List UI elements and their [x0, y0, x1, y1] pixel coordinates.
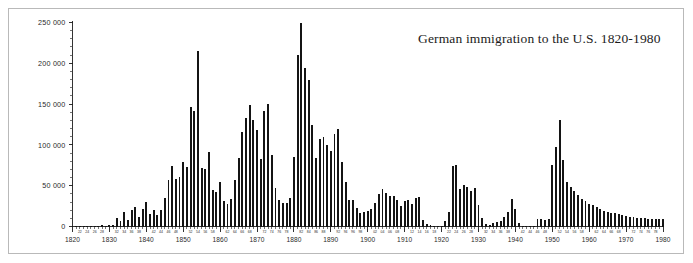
- bar: [485, 224, 487, 226]
- bar: [97, 226, 99, 227]
- x-axis-minor-label: 34: [491, 230, 495, 234]
- bar: [131, 210, 133, 227]
- bar: [363, 212, 365, 226]
- bar: [544, 220, 546, 227]
- bar: [570, 187, 572, 226]
- bar: [175, 179, 177, 227]
- x-axis-decade-label: 1900: [360, 236, 375, 243]
- bar: [618, 214, 620, 226]
- bar: [610, 213, 612, 227]
- x-axis-minor-label: 78: [654, 230, 658, 234]
- bar: [404, 201, 406, 227]
- x-axis-minor-label: 32: [484, 230, 488, 234]
- bar: [116, 218, 118, 226]
- bar: [496, 222, 498, 226]
- bar: [190, 107, 192, 226]
- bar: [540, 219, 542, 226]
- bar: [223, 201, 225, 227]
- x-axis-minor-label: 56: [572, 230, 576, 234]
- x-axis-minor-label: 54: [196, 230, 200, 234]
- bar: [123, 212, 125, 226]
- x-axis-minor-label: 86: [314, 230, 318, 234]
- bar: [319, 139, 321, 226]
- x-axis-minor-label: 48: [174, 230, 178, 234]
- x-axis-minor-label: 68: [248, 230, 252, 234]
- bar: [522, 226, 524, 227]
- bar: [518, 223, 520, 226]
- x-axis-minor-label: 26: [93, 230, 97, 234]
- bar: [108, 225, 110, 227]
- bar: [341, 162, 343, 226]
- bar: [389, 196, 391, 227]
- bar: [655, 219, 657, 226]
- x-axis-decade-label: 1830: [102, 236, 117, 243]
- x-axis-minor-label: 64: [233, 230, 237, 234]
- bar: [514, 209, 516, 227]
- x-axis-minor-label: 38: [506, 230, 510, 234]
- x-axis-minor-label: 58: [580, 230, 584, 234]
- bar: [193, 111, 195, 227]
- bar: [658, 219, 660, 226]
- bar: [599, 209, 601, 227]
- x-axis-decade-label: 1850: [176, 236, 191, 243]
- x-axis-minor-label: 46: [167, 230, 171, 234]
- bar: [112, 225, 114, 227]
- x-axis-decade-label: 1880: [286, 236, 301, 243]
- bar: [573, 191, 575, 227]
- chart-plot-area: 050 000100 000150 000200 000250 00022242…: [0, 0, 693, 263]
- bar: [308, 80, 310, 227]
- x-axis-minor-label: 42: [152, 230, 156, 234]
- bar: [478, 205, 480, 227]
- bar: [297, 55, 299, 227]
- bar: [352, 200, 354, 226]
- bar: [537, 219, 539, 226]
- bar: [149, 214, 151, 226]
- bar: [448, 212, 450, 226]
- bar: [160, 210, 162, 227]
- bar: [470, 191, 472, 227]
- bar: [400, 206, 402, 227]
- bar: [326, 145, 328, 226]
- bar: [145, 202, 147, 226]
- x-axis-decade-label: 1940: [508, 236, 523, 243]
- bar: [459, 189, 461, 227]
- x-axis-decade-label: 1820: [65, 236, 80, 243]
- bar: [171, 166, 173, 227]
- x-axis-minor-label: 74: [270, 230, 274, 234]
- bar: [393, 196, 395, 227]
- bar: [256, 130, 258, 226]
- x-axis-minor-label: 52: [558, 230, 562, 234]
- bar: [614, 213, 616, 226]
- bar: [562, 160, 564, 226]
- bar: [588, 204, 590, 227]
- bar: [367, 211, 369, 226]
- bar: [86, 226, 88, 227]
- bar: [278, 200, 280, 226]
- chart-figure: German immigration to the U.S. 1820-1980…: [0, 0, 693, 263]
- bar: [156, 215, 158, 227]
- bar: [492, 223, 494, 227]
- x-axis-minor-label: 94: [344, 230, 348, 234]
- bar: [441, 226, 443, 227]
- x-axis-minor-label: 28: [469, 230, 473, 234]
- bar: [629, 217, 631, 227]
- x-axis-minor-label: 46: [536, 230, 540, 234]
- bar: [503, 217, 505, 226]
- bar: [662, 219, 664, 226]
- bar: [267, 104, 269, 226]
- bar: [533, 226, 535, 227]
- bar: [83, 226, 85, 227]
- bar: [430, 225, 432, 227]
- bar-series: [72, 23, 664, 228]
- x-axis-minor-label: 14: [417, 230, 421, 234]
- bar: [293, 157, 295, 226]
- bar: [275, 188, 277, 227]
- bar: [566, 182, 568, 227]
- bar: [422, 220, 424, 226]
- y-axis-label: 250 000: [38, 18, 65, 27]
- bar: [182, 162, 184, 226]
- bar: [168, 180, 170, 227]
- bar: [437, 226, 439, 227]
- bar: [426, 224, 428, 226]
- x-axis-minor-label: 58: [211, 230, 215, 234]
